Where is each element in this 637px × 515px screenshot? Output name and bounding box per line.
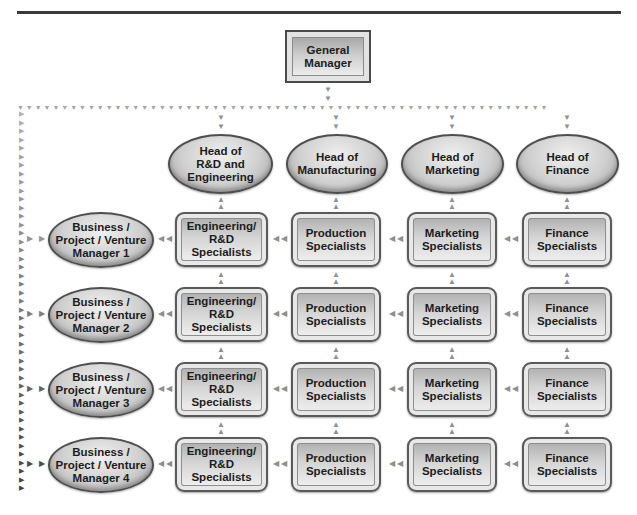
arrow-right-icon: ▶ ▶ xyxy=(27,310,47,318)
functional-head-node: Head of Marketing xyxy=(401,134,504,194)
arrow-right-icon: ▶ xyxy=(19,178,27,187)
arrow-right-icon: ▶ xyxy=(19,153,27,162)
arrow-left-icon: ◀ ◀ xyxy=(158,385,172,393)
specialist-node: Production Specialists xyxy=(291,437,381,492)
arrow-right-icon: ▶ xyxy=(19,323,27,332)
arrow-left-icon: ◀ ◀ xyxy=(273,460,287,468)
specialist-node: Production Specialists xyxy=(291,212,381,267)
arrow-right-icon: ▶ xyxy=(19,170,27,179)
arrow-right-icon: ▶ xyxy=(19,416,27,425)
functional-head-node: Head of R&D and Engineering xyxy=(168,134,273,194)
arrow-right-icon: ▶ xyxy=(19,314,27,323)
distribution-arrow-line: ▼ ▼ ▼ ▼ ▼ ▼ ▼ ▼ ▼ ▼ ▼ ▼ ▼ ▼ ▼ ▼ ▼ ▼ ▼ ▼ … xyxy=(17,104,607,111)
arrow-up-icon: ▲ xyxy=(448,203,456,210)
arrow-right-icon: ▶ xyxy=(19,136,27,145)
arrow-right-icon: ▶ xyxy=(19,476,27,485)
arrow-up-icon: ▲ xyxy=(563,278,571,285)
project-manager-node: Business / Project / Venture Manager 1 xyxy=(48,212,154,268)
header-rule xyxy=(17,11,621,14)
specialist-node: Marketing Specialists xyxy=(407,437,497,492)
arrow-down-icon: ▼ xyxy=(448,114,456,121)
arrow-down-icon: ▼ xyxy=(324,95,332,102)
arrow-left-icon: ◀ ◀ xyxy=(389,460,403,468)
arrow-left-icon: ◀ ◀ xyxy=(504,385,518,393)
arrow-right-icon: ▶ xyxy=(19,297,27,306)
arrow-right-icon: ▶ ▶ xyxy=(27,385,47,393)
arrow-right-icon: ▶ xyxy=(19,289,27,298)
arrow-left-icon: ◀ ◀ xyxy=(504,460,518,468)
arrow-up-icon: ▲ xyxy=(217,353,225,360)
arrow-up-icon: ▲ xyxy=(448,278,456,285)
arrow-right-icon: ▶ xyxy=(19,357,27,366)
specialist-node: Marketing Specialists xyxy=(407,212,497,267)
arrow-right-icon: ▶ xyxy=(19,119,27,128)
arrow-down-icon: ▼ xyxy=(332,114,340,121)
arrow-right-icon: ▶ xyxy=(19,195,27,204)
arrow-right-icon: ▶ xyxy=(19,340,27,349)
arrow-right-icon: ▶ xyxy=(19,442,27,451)
arrow-left-icon: ◀ ◀ xyxy=(273,235,287,243)
arrow-left-icon: ◀ ◀ xyxy=(158,460,172,468)
arrow-right-icon: ▶ xyxy=(19,365,27,374)
arrow-right-icon: ▶ xyxy=(19,272,27,281)
arrow-up-icon: ▲ xyxy=(217,428,225,435)
arrow-down-icon: ▼ xyxy=(332,123,340,130)
arrow-right-icon: ▶ xyxy=(19,263,27,272)
arrow-down-icon: ▼ xyxy=(448,123,456,130)
arrow-left-icon: ◀ ◀ xyxy=(504,310,518,318)
arrow-down-icon: ▼ xyxy=(563,123,571,130)
arrow-up-icon: ▲ xyxy=(332,278,340,285)
arrow-left-icon: ◀ ◀ xyxy=(158,235,172,243)
arrow-right-icon: ▶ xyxy=(19,459,27,468)
arrow-up-icon: ▲ xyxy=(217,278,225,285)
arrow-up-icon: ▲ xyxy=(448,428,456,435)
specialist-node: Marketing Specialists xyxy=(407,287,497,342)
arrow-left-icon: ◀ ◀ xyxy=(389,310,403,318)
specialist-node: Finance Specialists xyxy=(522,362,612,417)
arrow-right-icon: ▶ xyxy=(19,374,27,383)
arrow-right-icon: ▶ xyxy=(19,221,27,230)
specialist-node: Engineering/ R&D Specialists xyxy=(175,287,268,342)
specialist-node: Finance Specialists xyxy=(522,437,612,492)
arrow-up-icon: ▲ xyxy=(563,203,571,210)
arrow-up-icon: ▲ xyxy=(332,428,340,435)
arrow-right-icon: ▶ xyxy=(19,382,27,391)
arrow-left-icon: ◀ ◀ xyxy=(504,235,518,243)
arrow-right-icon: ▶ xyxy=(19,425,27,434)
specialist-node: Engineering/ R&D Specialists xyxy=(175,437,268,492)
specialist-node: Marketing Specialists xyxy=(407,362,497,417)
specialist-node: Finance Specialists xyxy=(522,287,612,342)
arrow-right-icon: ▶ xyxy=(19,127,27,136)
arrow-down-icon: ▼ xyxy=(563,114,571,121)
arrow-up-icon: ▲ xyxy=(217,203,225,210)
specialist-node: Production Specialists xyxy=(291,287,381,342)
arrow-left-icon: ◀ ◀ xyxy=(389,385,403,393)
arrow-right-icon: ▶ xyxy=(19,212,27,221)
arrow-right-icon: ▶ xyxy=(19,348,27,357)
arrow-right-icon: ▶ ▶ xyxy=(27,460,47,468)
arrow-down-icon: ▼ xyxy=(217,123,225,130)
arrow-right-icon: ▶ xyxy=(19,433,27,442)
arrow-right-icon: ▶ xyxy=(19,144,27,153)
arrow-right-icon: ▶ xyxy=(19,467,27,476)
arrow-right-icon: ▶ xyxy=(19,229,27,238)
project-manager-node: Business / Project / Venture Manager 4 xyxy=(48,437,154,493)
left-vertical-arrow-line: ▶▶▶▶▶▶▶▶▶▶▶▶▶▶▶▶▶▶▶▶▶▶▶▶▶▶▶▶▶▶▶▶▶▶▶▶▶▶▶▶… xyxy=(19,110,27,493)
arrow-right-icon: ▶ xyxy=(19,484,27,493)
arrow-left-icon: ◀ ◀ xyxy=(389,235,403,243)
arrow-left-icon: ◀ ◀ xyxy=(273,385,287,393)
arrow-up-icon: ▲ xyxy=(332,203,340,210)
arrow-right-icon: ▶ xyxy=(19,238,27,247)
general-manager-node: General Manager xyxy=(285,30,371,83)
arrow-right-icon: ▶ xyxy=(19,408,27,417)
arrow-right-icon: ▶ xyxy=(19,450,27,459)
functional-head-node: Head of Manufacturing xyxy=(286,134,388,194)
arrow-up-icon: ▲ xyxy=(563,428,571,435)
arrow-up-icon: ▲ xyxy=(448,353,456,360)
arrow-down-icon: ▼ xyxy=(324,86,332,93)
arrow-right-icon: ▶ xyxy=(19,110,27,119)
specialist-node: Engineering/ R&D Specialists xyxy=(175,212,268,267)
arrow-right-icon: ▶ xyxy=(19,391,27,400)
specialist-node: Production Specialists xyxy=(291,362,381,417)
project-manager-node: Business / Project / Venture Manager 3 xyxy=(48,362,154,418)
